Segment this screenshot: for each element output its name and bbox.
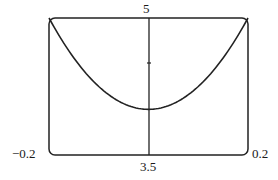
x-min-label: −0.2: [12, 147, 36, 160]
y-min-label: 3.5: [140, 160, 156, 173]
x-max-label: 0.2: [252, 147, 268, 160]
plot-area: [0, 0, 278, 180]
y-max-label: 5: [143, 2, 150, 15]
